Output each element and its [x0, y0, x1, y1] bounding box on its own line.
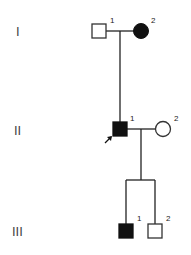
individual-ii-2-female-unaffected: [156, 122, 171, 137]
individual-number: 2: [174, 114, 179, 123]
individual-iii-2-male-unaffected: [148, 224, 162, 238]
generation-label-i: I: [16, 24, 20, 39]
proband-arrow-icon: [105, 136, 112, 143]
individual-number: 2: [151, 16, 156, 25]
individual-i-2-female-affected: [134, 24, 149, 39]
individual-iii-1-male-affected: [119, 224, 133, 238]
pedigree-diagram: I II III 1 2 1 2 1 2: [0, 0, 191, 255]
individual-number: 1: [130, 114, 135, 123]
individual-i-1-male-unaffected: [92, 24, 106, 38]
individual-number: 1: [137, 214, 142, 223]
individual-number: 1: [110, 16, 115, 25]
generation-label-iii: III: [12, 224, 23, 239]
individual-ii-1-male-affected-proband: [113, 122, 127, 136]
individual-number: 2: [166, 214, 171, 223]
generation-label-ii: II: [14, 123, 21, 138]
